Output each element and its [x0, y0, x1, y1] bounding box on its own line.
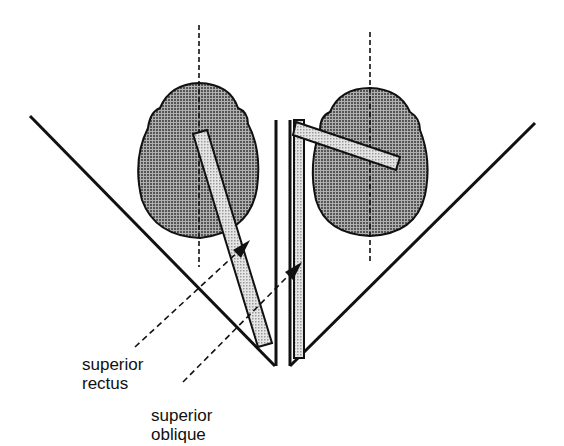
superior-oblique-label-line1: superior — [151, 406, 212, 425]
superior-oblique-label-line2: oblique — [151, 425, 212, 444]
superior-rectus-label-line2: rectus — [82, 374, 143, 393]
superior-rectus-label-line1: superior — [82, 355, 143, 374]
superior-oblique-tendon-vertical — [294, 120, 304, 358]
superior-rectus-label: superior rectus — [82, 355, 143, 393]
superior-oblique-label: superior oblique — [151, 406, 212, 444]
